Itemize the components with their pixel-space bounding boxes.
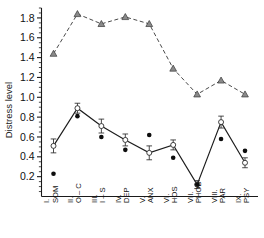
y-axis-label-text: Distress level [3, 82, 14, 139]
y-tick-label: 0.4 [20, 150, 35, 162]
y-tick-label: 0.2 [20, 170, 35, 182]
y-tick-label: 0.8 [20, 111, 35, 123]
data-point-open-circle [171, 142, 176, 147]
axes [42, 8, 259, 197]
data-point-triangle [122, 14, 129, 20]
y-axis-tick-labels: 0.20.40.60.81.01.21.41.61.8 [20, 12, 35, 183]
y-tick-label: 1.2 [20, 71, 35, 83]
y-axis-major-ticks [37, 18, 42, 177]
x-tick-label-abbr: HOS [170, 187, 179, 203]
triangle-markers [50, 11, 248, 97]
data-point-filled-dot [219, 137, 224, 142]
data-point-open-circle [123, 137, 128, 142]
x-tick-label-abbr: SOM [51, 186, 60, 203]
data-point-filled-dot [75, 114, 80, 119]
data-point-filled-dot [147, 133, 152, 138]
data-point-open-circle [99, 124, 104, 129]
x-tick-label-abbr: PAR [218, 187, 227, 203]
data-point-filled-dot [99, 135, 104, 140]
x-tick-label-abbr: DEP [122, 187, 131, 203]
distress-level-chart: Distress level 0.20.40.60.81.01.21.41.61… [0, 0, 264, 238]
data-point-triangle [170, 65, 177, 71]
data-point-open-circle [147, 150, 152, 155]
data-point-open-circle [243, 160, 248, 165]
data-point-triangle [242, 91, 249, 97]
y-axis-label: Distress level [3, 82, 14, 139]
error-bars [51, 103, 248, 188]
data-point-open-circle [75, 106, 80, 111]
data-point-filled-dot [243, 149, 248, 154]
data-point-open-circle [219, 120, 224, 125]
x-tick-label-abbr: PHOB [194, 181, 203, 203]
y-tick-label: 1.0 [20, 91, 35, 103]
data-point-triangle [218, 77, 225, 83]
data-point-filled-dot [171, 156, 176, 161]
x-tick-label-abbr: I – S [98, 187, 107, 203]
data-point-triangle [194, 91, 201, 97]
x-axis-tick-labels: I.SOMII.O – CIII.I – SIV.DEPV.ANXVI.HOSV… [42, 181, 251, 203]
data-point-filled-dot [51, 171, 56, 176]
y-tick-label: 0.6 [20, 131, 35, 143]
x-tick-label-abbr: PSY [242, 188, 251, 203]
chart-canvas: Distress level 0.20.40.60.81.01.21.41.61… [0, 0, 264, 238]
data-point-open-circle [51, 143, 56, 148]
y-tick-label: 1.6 [20, 31, 35, 43]
y-tick-label: 1.4 [20, 51, 35, 63]
data-point-filled-dot [123, 148, 128, 153]
y-tick-label: 1.8 [20, 12, 35, 24]
data-point-triangle [74, 11, 81, 17]
data-point-triangle [50, 50, 57, 56]
x-tick-label-abbr: ANX [146, 187, 155, 203]
x-tick-label-abbr: O – C [74, 183, 83, 203]
